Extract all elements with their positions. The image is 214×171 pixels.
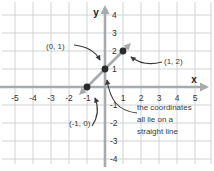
x-tick-label-neg2: -2	[65, 93, 73, 103]
y-tick-label-neg1: -1	[110, 100, 118, 110]
x-tick-label-neg1: -1	[83, 93, 91, 103]
y-tick-label-4: 4	[112, 10, 117, 20]
y-tick-label-neg4: -4	[110, 154, 118, 164]
x-tick-label-1: 1	[121, 93, 126, 103]
y-tick-label-neg2: -2	[110, 118, 118, 128]
y-axis-label: y	[93, 7, 99, 18]
x-tick-label-neg5: -5	[11, 93, 19, 103]
x-tick-label-neg3: -3	[47, 93, 55, 103]
y-tick-label-2: 2	[112, 46, 117, 56]
arrow-to-point-1-2	[131, 57, 162, 64]
point-label-0-1: (0, 1)	[46, 42, 65, 51]
point-dot-0-1	[102, 66, 109, 73]
point-dot-1-2	[120, 48, 127, 55]
figure-svg: -5 -4 -3 -2 -1 1 2 3 4 5 4 3 2 1 -1 -2 -…	[0, 0, 214, 171]
x-axis-label: x	[191, 74, 197, 85]
y-tick-label-3: 3	[112, 28, 117, 38]
y-axis-arrow-icon	[101, 5, 110, 14]
point-dot-neg1-0	[84, 84, 91, 91]
coordinate-plane-figure: -5 -4 -3 -2 -1 1 2 3 4 5 4 3 2 1 -1 -2 -…	[0, 0, 214, 171]
y-tick-label-neg3: -3	[110, 136, 118, 146]
x-axis-arrow-icon	[200, 83, 209, 92]
x-tick-label-4: 4	[175, 93, 180, 103]
annotation-line-2: all lie on a	[137, 115, 174, 124]
x-tick-label-2: 2	[139, 93, 144, 103]
annotation-line-1: the coordinates	[137, 103, 192, 112]
point-label-neg1-0: (-1, 0)	[69, 119, 91, 128]
point-label-1-2: (1, 2)	[164, 57, 183, 66]
annotation-line-3: straight line	[137, 127, 178, 136]
arrow-to-point-neg1-0	[92, 98, 97, 126]
x-tick-label-5: 5	[193, 93, 198, 103]
x-tick-label-3: 3	[157, 93, 162, 103]
y-tick-label-1: 1	[112, 64, 117, 74]
x-tick-label-neg4: -4	[29, 93, 37, 103]
